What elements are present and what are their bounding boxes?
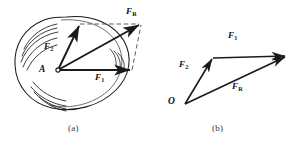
caption-panel-a: (a) [68,123,79,133]
force-vector-figure [0,0,308,150]
label-b-fr: FR [232,82,242,91]
point-a-marker [56,68,60,72]
label-point-a: A [39,64,45,74]
caption-panel-b: (b) [212,123,223,133]
label-b-f1: F1 [228,31,237,40]
label-b-f2: F2 [179,60,188,69]
label-a-f1: F1 [95,73,104,82]
label-point-o: O [168,96,175,106]
label-a-f2: F2 [44,42,53,51]
label-a-fr: FR [126,7,136,16]
figure-background [0,0,308,150]
